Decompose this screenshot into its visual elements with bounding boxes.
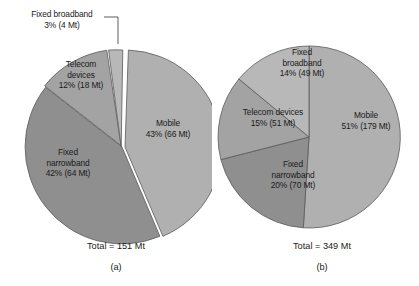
pie-a-label-fixed-narrowband-name1: Fixed xyxy=(22,147,114,158)
pie-b-label-fixed-narrowband-name1: Fixed xyxy=(249,159,337,170)
pie-a-label-mobile-name: Mobile xyxy=(128,118,208,129)
pie-a-label-telecom-devices: Telecom devices 12% (18 Mt) xyxy=(38,59,124,91)
pie-a-index-caption: (a) xyxy=(86,262,146,272)
pie-b-label-fixed-broadband-name2: broadband xyxy=(258,58,346,69)
pie-a-label-fixed-narrowband-name2: narrowband xyxy=(22,158,114,169)
pie-b-label-telecom-devices-name: Telecom devices xyxy=(218,107,328,118)
pie-a-label-mobile-value: 43% (66 Mt) xyxy=(128,129,208,140)
pie-chart-figure: Fixed broadband 3% (4 Mt) Telecom device… xyxy=(0,0,419,286)
pie-panel-b: Fixed broadband 14% (49 Mt) Telecom devi… xyxy=(208,0,419,286)
pie-b-label-fixed-narrowband-value: 20% (70 Mt) xyxy=(249,180,337,191)
pie-b-label-fixed-broadband-name1: Fixed xyxy=(258,47,346,58)
pie-a-label-telecom-devices-name2: devices xyxy=(38,70,124,81)
pie-a-label-fixed-narrowband-value: 42% (64 Mt) xyxy=(22,168,114,179)
pie-b-label-fixed-narrowband-name2: narrowband xyxy=(249,170,337,181)
pie-b-label-mobile: Mobile 51% (179 Mt) xyxy=(320,110,412,131)
pie-b-label-telecom-devices: Telecom devices 15% (51 Mt) xyxy=(218,107,328,128)
pie-a-label-fixed-broadband-name: Fixed broadband xyxy=(6,9,118,20)
pie-b-label-fixed-broadband: Fixed broadband 14% (49 Mt) xyxy=(258,47,346,79)
pie-b-index-caption: (b) xyxy=(292,262,352,272)
pie-a-label-fixed-broadband: Fixed broadband 3% (4 Mt) xyxy=(6,9,118,30)
pie-b-label-fixed-broadband-value: 14% (49 Mt) xyxy=(258,68,346,79)
pie-a-label-mobile: Mobile 43% (66 Mt) xyxy=(128,118,208,139)
pie-a-label-telecom-devices-name1: Telecom xyxy=(38,59,124,70)
pie-b-label-mobile-value: 51% (179 Mt) xyxy=(320,121,412,132)
pie-b-label-fixed-narrowband: Fixed narrowband 20% (70 Mt) xyxy=(249,159,337,191)
pie-a-label-fixed-narrowband: Fixed narrowband 42% (64 Mt) xyxy=(22,147,114,179)
pie-b-label-telecom-devices-value: 15% (51 Mt) xyxy=(218,118,328,129)
pie-b-label-mobile-name: Mobile xyxy=(320,110,412,121)
pie-panel-a: Fixed broadband 3% (4 Mt) Telecom device… xyxy=(0,0,212,286)
pie-a-total-caption: Total = 151 Mt xyxy=(56,241,176,251)
pie-a-label-fixed-broadband-value: 3% (4 Mt) xyxy=(6,20,118,31)
pie-a-label-telecom-devices-value: 12% (18 Mt) xyxy=(38,80,124,91)
pie-b-total-caption: Total = 349 Mt xyxy=(262,241,382,251)
